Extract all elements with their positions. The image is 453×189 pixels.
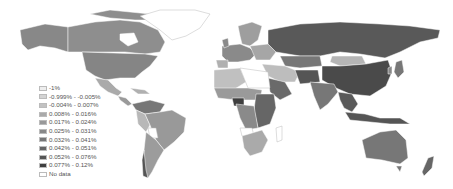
legend-entry: No data — [39, 170, 101, 179]
region-russia — [268, 22, 440, 58]
legend-entry: -1% — [39, 84, 101, 93]
region-india — [310, 82, 338, 110]
region-japan — [394, 60, 404, 78]
region-caribbean — [130, 88, 150, 94]
legend-entry: 0.017% - 0.024% — [39, 118, 101, 127]
legend-swatch — [39, 146, 47, 151]
legend-swatch — [39, 163, 47, 168]
region-central-america — [118, 96, 132, 106]
region-southeast-asia — [338, 92, 358, 112]
legend-swatch — [39, 120, 47, 125]
legend-swatch — [39, 137, 47, 142]
legend-entry: -0.004% - 0.007% — [39, 101, 101, 110]
legend-entry: 0.025% - 0.031% — [39, 127, 101, 136]
region-new-zealand — [422, 156, 434, 176]
legend-swatch — [39, 86, 47, 91]
region-australia — [362, 130, 408, 164]
legend-swatch — [39, 112, 47, 117]
region-scandinavia — [238, 22, 262, 46]
legend-swatch — [39, 172, 47, 177]
legend-swatch — [39, 155, 47, 160]
legend-swatch — [39, 129, 47, 134]
legend-swatch — [39, 94, 47, 99]
legend-entry: 0.077% - 0.12% — [39, 161, 101, 170]
region-kazakhstan — [280, 56, 322, 68]
region-tasmania — [396, 166, 402, 172]
region-madagascar — [276, 126, 282, 142]
region-alaska — [20, 24, 68, 52]
region-iberia — [216, 60, 228, 68]
legend-swatch — [39, 103, 47, 108]
region-iran-afghanistan — [295, 70, 320, 84]
legend-entry: 0.032% - 0.041% — [39, 136, 101, 145]
legend-entry: -0.999% - -0.005% — [39, 93, 101, 102]
region-canada — [68, 20, 165, 54]
region-indonesia — [345, 112, 410, 124]
legend-entry: 0.042% - 0.051% — [39, 144, 101, 153]
map-legend: -1% -0.999% - -0.005% -0.004% - 0.007% 0… — [39, 84, 101, 179]
legend-entry: 0.052% - 0.076% — [39, 153, 101, 162]
region-usa — [82, 52, 158, 80]
legend-entry: 0.008% - 0.016% — [39, 110, 101, 119]
